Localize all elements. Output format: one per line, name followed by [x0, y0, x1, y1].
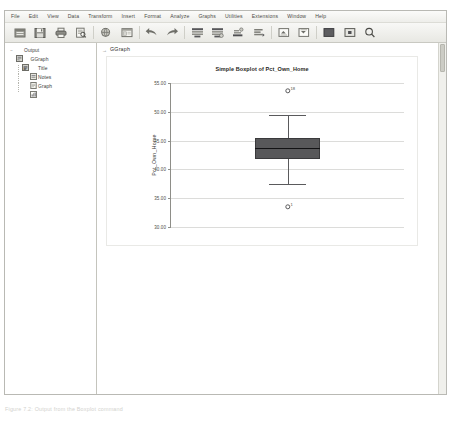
menu-item-extensions[interactable]: Extensions: [252, 14, 278, 19]
menu-item-window[interactable]: Window: [287, 14, 306, 19]
demote-icon[interactable]: [295, 24, 314, 42]
block-marker-icon: →: [102, 48, 107, 53]
output-content-pane[interactable]: → GGraph Simple Boxplot of Pct_Own_Home …: [97, 43, 446, 394]
selection-arrow-icon: ▶: [23, 67, 28, 71]
viewer-body: − Output − GGraph ▶: [5, 43, 446, 394]
toolbar-separator: [92, 26, 95, 40]
outline-label-output: Output: [24, 49, 39, 54]
menu-bar: File Edit View Data Transform Insert For…: [5, 11, 446, 23]
redo-icon[interactable]: [163, 24, 182, 42]
notes-icon: [30, 75, 37, 82]
outline-node-graph[interactable]: Graph: [9, 83, 96, 92]
y-tick-label: 55.00: [154, 81, 166, 86]
menu-item-view[interactable]: View: [47, 14, 59, 19]
outlier-marker[interactable]: [285, 88, 290, 93]
print-preview-icon[interactable]: [72, 24, 91, 42]
toolbar-separator: [138, 26, 141, 40]
y-tick-label: 45.00: [154, 138, 166, 143]
outlier-label: 18: [291, 85, 296, 90]
menu-item-edit[interactable]: Edit: [29, 14, 38, 19]
y-tick: [168, 83, 171, 84]
menu-item-analyze[interactable]: Analyze: [170, 14, 189, 19]
output-icon: [16, 48, 23, 55]
chart-title: Simple Boxplot of Pct_Own_Home: [107, 66, 417, 72]
figure-caption: Figure 7.2: Output from the Boxplot comm…: [5, 406, 123, 412]
vertical-scrollbar[interactable]: [438, 43, 446, 394]
y-tick: [168, 112, 171, 113]
tree-guide: [16, 74, 22, 83]
save-icon[interactable]: [31, 24, 50, 42]
gridline: [171, 198, 404, 199]
scrollbar-thumb[interactable]: [440, 44, 445, 72]
y-tick: [168, 227, 171, 228]
log-icon: [22, 57, 29, 64]
chart-object[interactable]: Simple Boxplot of Pct_Own_Home Pct_Own_H…: [106, 56, 418, 246]
recall-dialog-icon[interactable]: [117, 24, 136, 42]
outline-node-ggraph[interactable]: − GGraph: [9, 56, 96, 65]
outline-label-graph: Graph: [38, 85, 52, 90]
toolbar-separator: [315, 26, 318, 40]
expand-icon[interactable]: [340, 24, 359, 42]
print-icon[interactable]: [51, 24, 70, 42]
undo-icon[interactable]: [142, 24, 161, 42]
lower-whisker-line: [288, 159, 289, 184]
run-descriptives-icon[interactable]: [249, 24, 268, 42]
menu-item-data[interactable]: Data: [68, 14, 79, 19]
outline-pane[interactable]: − Output − GGraph ▶: [5, 43, 97, 394]
y-tick-label: 40.00: [154, 167, 166, 172]
outline-label-notes: Notes: [38, 76, 51, 81]
export-icon[interactable]: [97, 24, 116, 42]
open-file-icon[interactable]: [10, 24, 29, 42]
menu-item-file[interactable]: File: [11, 14, 20, 19]
collapse-icon[interactable]: [320, 24, 339, 42]
outline-label-title: Title: [38, 67, 48, 72]
outline-label-ggraph: GGraph: [31, 58, 49, 63]
twisty-ggraph[interactable]: −: [16, 58, 21, 62]
median-line: [255, 148, 320, 149]
go-to-case-icon[interactable]: [208, 24, 227, 42]
gridline: [171, 227, 404, 228]
find-icon[interactable]: [361, 24, 380, 42]
promote-icon[interactable]: [274, 24, 293, 42]
tree-guide: [16, 65, 22, 74]
tree-guide: [16, 83, 22, 92]
menu-item-transform[interactable]: Transform: [88, 14, 112, 19]
lower-whisker-cap: [269, 184, 306, 185]
plot-area: Pct_Own_Home 55.00 50.00 45.00 40.00: [170, 83, 404, 227]
y-tick: [168, 141, 171, 142]
variables-icon[interactable]: [229, 24, 248, 42]
toolbar-separator: [183, 26, 186, 40]
outline-node-output[interactable]: − Output: [9, 47, 96, 56]
spss-viewer-window: File Edit View Data Transform Insert For…: [4, 10, 447, 395]
y-tick-label: 35.00: [154, 196, 166, 201]
outlier-marker[interactable]: [285, 204, 290, 209]
y-tick: [168, 198, 171, 199]
y-tick-label: 50.00: [154, 109, 166, 114]
outline-node-notes[interactable]: Notes: [9, 74, 96, 83]
y-tick-label: 30.00: [154, 225, 166, 230]
menu-item-help[interactable]: Help: [315, 14, 326, 19]
menu-item-format[interactable]: Format: [144, 14, 161, 19]
outline-node-title[interactable]: ▶ Title: [9, 65, 96, 74]
go-to-data-icon[interactable]: [188, 24, 207, 42]
toolbar-separator: [270, 26, 273, 40]
y-tick: [168, 169, 171, 170]
gridline: [171, 83, 404, 84]
outlier-label: 1: [291, 202, 293, 207]
title-icon: [30, 66, 37, 73]
toolbar: [5, 23, 446, 43]
ggraph-block-header[interactable]: → GGraph: [97, 43, 446, 54]
graph-icon: [30, 84, 37, 91]
upper-whisker-line: [288, 115, 289, 138]
twisty-output[interactable]: −: [9, 49, 14, 53]
ggraph-block-label: GGraph: [110, 47, 130, 52]
menu-item-utilities[interactable]: Utilities: [225, 14, 243, 19]
upper-whisker-cap: [269, 115, 306, 116]
menu-item-graphs[interactable]: Graphs: [198, 14, 216, 19]
gridline: [171, 112, 404, 113]
menu-item-insert[interactable]: Insert: [122, 14, 136, 19]
